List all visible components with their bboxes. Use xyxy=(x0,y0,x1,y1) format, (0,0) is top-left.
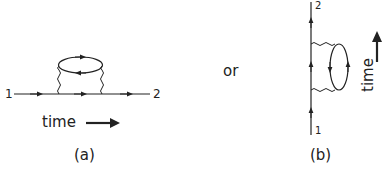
vertex-label-start-a: 1 xyxy=(5,88,13,100)
fermion-loop-a xyxy=(59,57,103,73)
photon-line-b1 xyxy=(311,43,335,46)
caption-b: (b) xyxy=(310,148,331,163)
vertex-label-start-b: 1 xyxy=(315,126,321,136)
diagram-a xyxy=(14,57,150,128)
vertex-label-end-b: 2 xyxy=(315,1,321,11)
or-connector: or xyxy=(223,64,238,79)
fermion-loop-b xyxy=(330,44,348,90)
vertex-label-end-a: 2 xyxy=(153,88,161,100)
time-label-b: time xyxy=(361,58,376,92)
caption-a: (a) xyxy=(74,148,95,163)
photon-line-a1 xyxy=(58,66,61,94)
time-arrow-icon xyxy=(372,31,382,42)
time-label-a: time xyxy=(42,115,76,130)
photon-line-a2 xyxy=(101,66,104,94)
feynman-diagrams xyxy=(0,0,390,171)
photon-line-b2 xyxy=(311,89,335,92)
time-arrow-icon xyxy=(110,118,120,128)
